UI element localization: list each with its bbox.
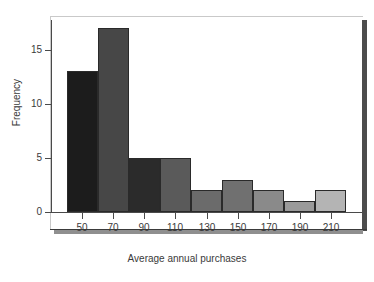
bars-group — [51, 17, 362, 212]
x-axis-tick — [175, 213, 176, 219]
x-axis-title: Average annual purchases — [0, 253, 374, 264]
y-axis-tick-label: 0 — [12, 207, 42, 217]
y-axis-tick-label: 5 — [12, 153, 42, 163]
x-axis-tick — [238, 213, 239, 219]
histogram-bar — [98, 28, 129, 212]
plot-frame-shadow-right — [362, 20, 367, 231]
x-axis-tick — [144, 213, 145, 219]
histogram-bar — [67, 71, 98, 212]
x-axis-tick — [82, 213, 83, 219]
x-axis-tick — [300, 213, 301, 219]
x-axis-tick — [207, 213, 208, 219]
x-axis-tick — [113, 213, 114, 219]
histogram-bar — [160, 158, 191, 212]
x-axis-tick — [269, 213, 270, 219]
histogram-bar — [315, 190, 346, 212]
x-axis-tick-label: 210 — [311, 222, 351, 233]
y-axis-title: Frequency — [11, 53, 22, 153]
histogram-bar — [284, 201, 315, 212]
histogram-bar — [191, 190, 222, 212]
x-axis-tick — [331, 213, 332, 219]
histogram-bar — [253, 190, 284, 212]
y-axis-tick — [45, 212, 51, 213]
histogram-figure: 051015 Frequency 50709011013015017019021… — [0, 0, 374, 282]
histogram-bar — [222, 180, 253, 213]
histogram-bar — [129, 158, 160, 212]
